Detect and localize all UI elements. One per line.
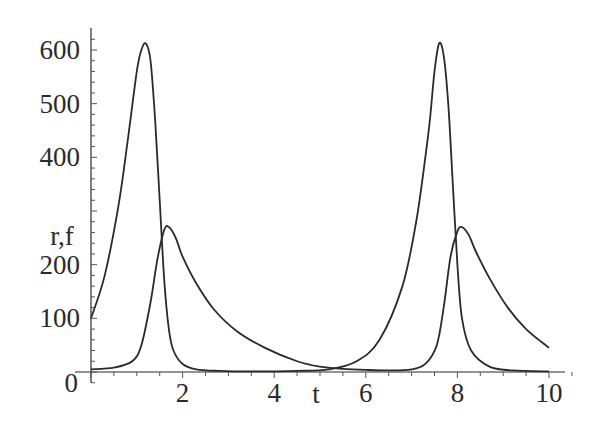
series-f-line (91, 226, 549, 371)
tick-labels: 0100200400500600246810 (40, 35, 563, 408)
y-tick-label: 500 (40, 89, 81, 119)
y-tick-label: 100 (40, 303, 81, 333)
predator-prey-chart: 0100200400500600246810 t r,f (0, 0, 591, 429)
series-r-line (91, 43, 549, 372)
x-tick-label: 4 (267, 378, 281, 408)
x-axis-label: t (312, 379, 320, 409)
y-tick-label: 0 (65, 368, 79, 398)
data-series (91, 43, 549, 372)
y-tick-label: 200 (40, 250, 81, 280)
x-tick-label: 10 (536, 378, 563, 408)
x-tick-label: 6 (359, 378, 373, 408)
y-axis-label: r,f (50, 221, 74, 251)
x-tick-label: 8 (451, 378, 465, 408)
x-tick-label: 2 (176, 378, 190, 408)
y-tick-label: 400 (40, 142, 81, 172)
axes (75, 28, 565, 383)
y-tick-label: 600 (40, 35, 81, 65)
axis-ticks (91, 39, 572, 382)
